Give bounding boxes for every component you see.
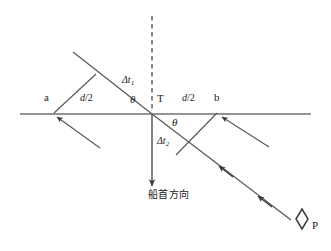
target-vessel-diamond <box>296 209 308 229</box>
diagonal-direction-arrow-far <box>258 196 272 207</box>
label-theta-left: θ <box>130 94 135 105</box>
label-theta-right: θ <box>172 117 177 128</box>
label-point-b: b <box>214 92 220 103</box>
label-point-p: P <box>312 220 318 231</box>
half-spacing-left-divisor: /2 <box>85 92 93 103</box>
figure-canvas: a b T P d/2 d/2 θ θ Δt1 Δt2 船首方向 <box>0 0 331 251</box>
incoming-ray-to-b <box>222 117 269 147</box>
label-point-t: T <box>157 93 164 104</box>
delta-t2-symbol: Δt <box>157 135 166 146</box>
label-ship-heading-text: 船首方向 <box>148 190 189 200</box>
diagram-vector-layer <box>0 0 331 251</box>
label-half-spacing-left: d/2 <box>80 93 93 103</box>
label-delta-t2: Δt2 <box>157 136 169 148</box>
half-spacing-right-divisor: /2 <box>187 92 195 103</box>
delta-t1-symbol: Δt <box>122 74 131 85</box>
wavefront-diagonal-lower-right <box>152 114 291 220</box>
diagonal-direction-arrow-near <box>219 166 233 177</box>
delta-t1-subscript: 1 <box>131 79 135 87</box>
incoming-ray-to-a <box>57 117 100 148</box>
label-half-spacing-right: d/2 <box>182 93 195 103</box>
label-delta-t1: Δt1 <box>122 75 134 87</box>
label-point-a: a <box>44 92 49 103</box>
delta-t2-subscript: 2 <box>166 140 170 148</box>
wavefront-diagonal-upper-left <box>73 52 152 114</box>
